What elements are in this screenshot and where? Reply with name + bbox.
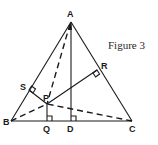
label-r: R [101, 62, 108, 71]
label-d: D [67, 125, 74, 134]
label-p: P [43, 94, 49, 103]
right-angle-q-icon [47, 116, 52, 121]
dashed-ap [47, 24, 70, 104]
dashed-cp [47, 104, 132, 121]
label-q: Q [43, 125, 50, 134]
label-a: A [67, 10, 74, 19]
label-c: C [129, 125, 136, 134]
side-ca [71, 22, 132, 121]
figure-3-diagram: A B C D Q P S R Figure 3 [0, 0, 158, 145]
figure-caption: Figure 3 [108, 40, 145, 51]
right-angle-d-icon [71, 116, 76, 121]
label-b: B [3, 118, 10, 127]
perpendicular-pr [47, 70, 97, 104]
label-s: S [20, 83, 26, 92]
right-angle-r-icon [93, 70, 100, 77]
